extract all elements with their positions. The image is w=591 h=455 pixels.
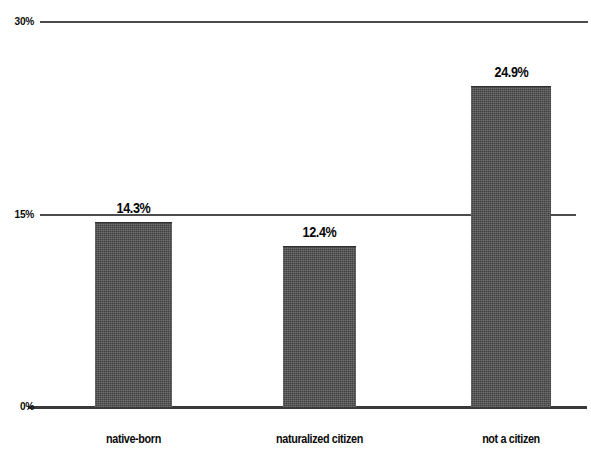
ytick-label-0: 0% bbox=[3, 400, 34, 412]
ytick-label-30: 30% bbox=[3, 15, 34, 27]
ytick-label-15: 15% bbox=[3, 208, 34, 220]
category-label-native-born: native-born bbox=[82, 432, 186, 446]
bar-chart: 30% 15% 0% 14.3% native-born 12.4% natur… bbox=[0, 0, 591, 455]
value-label-not-a-citizen: 24.9% bbox=[468, 64, 555, 80]
value-label-native-born: 14.3% bbox=[90, 200, 177, 216]
gridline-30 bbox=[40, 21, 588, 23]
bar-naturalized-citizen bbox=[283, 246, 356, 407]
category-label-naturalized-citizen: naturalized citizen bbox=[259, 432, 381, 446]
bar-native-born bbox=[95, 222, 172, 407]
value-label-naturalized-citizen: 12.4% bbox=[276, 224, 363, 240]
category-label-not-a-citizen: not a citizen bbox=[458, 432, 564, 446]
bar-not-a-citizen bbox=[471, 86, 551, 407]
